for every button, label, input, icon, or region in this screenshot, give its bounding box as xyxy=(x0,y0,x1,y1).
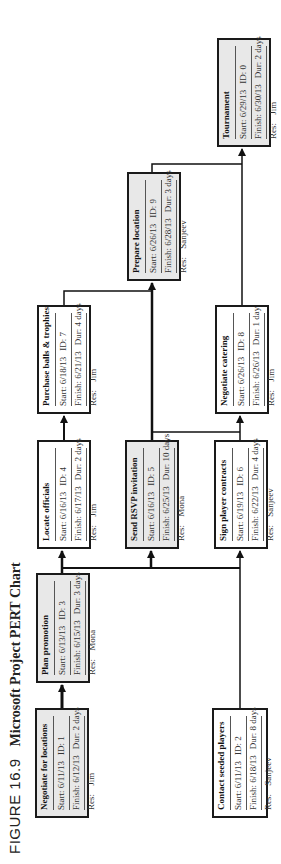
resource-label: Res: xyxy=(87,659,97,675)
task-id: 7 xyxy=(58,332,68,337)
id-label: ID: xyxy=(58,339,68,351)
finish-label: Finish: xyxy=(73,381,83,406)
duration-label: Dur: xyxy=(248,733,258,750)
finish-label: Finish: xyxy=(161,516,171,541)
duration-label: Dur: xyxy=(71,733,81,750)
finish-date: 6/18/13 xyxy=(248,755,258,783)
resource: Mona xyxy=(87,630,97,651)
task-id: 8 xyxy=(236,332,246,337)
task-id: 3 xyxy=(57,601,67,606)
duration: 3 days xyxy=(72,572,82,595)
task-id: 1 xyxy=(56,736,66,741)
task-node-sign-player-contracts[interactable]: Sign player contracts Start: 6/19/13ID: … xyxy=(214,440,268,549)
task-id: 4 xyxy=(58,467,68,472)
id-label: ID: xyxy=(148,206,158,218)
finish-label: Finish: xyxy=(71,785,81,810)
duration-label: Dur: xyxy=(250,464,260,481)
duration: 10 days xyxy=(161,434,171,462)
start-label: Start: xyxy=(238,120,248,140)
task-node-purchase-balls-trophies[interactable]: Purchase balls & trophies Start: 6/18/13… xyxy=(37,305,91,414)
duration: 2 days xyxy=(253,36,263,59)
duration-label: Dur: xyxy=(253,62,263,79)
finish-label: Finish: xyxy=(253,114,263,139)
task-node-prepare-location[interactable]: Prepare location Start: 6/26/13ID: 9 Fin… xyxy=(127,172,181,281)
task-name: Contact seeded players xyxy=(217,716,231,810)
id-label: ID: xyxy=(235,474,245,486)
finish-label: Finish: xyxy=(250,516,260,541)
duration: 2 days xyxy=(71,707,81,730)
duration: 2 days xyxy=(73,438,83,461)
id-label: ID: xyxy=(58,474,68,486)
resource: Jim xyxy=(88,504,98,517)
finish-date: 6/21/13 xyxy=(73,351,83,379)
id-label: ID: xyxy=(56,743,66,755)
resource: Jim xyxy=(86,773,96,786)
finish-date: 6/28/13 xyxy=(163,218,173,246)
task-id: 0 xyxy=(238,65,248,70)
task-id: 5 xyxy=(146,467,156,472)
task-node-send-rsvp-invitation[interactable]: Send RSVP invitation Start: 6/16/13ID: 5… xyxy=(125,440,179,549)
duration-label: Dur: xyxy=(161,464,171,481)
task-node-negotiate-locations[interactable]: Negotiate for locations Start: 6/11/13ID… xyxy=(35,708,89,818)
resource-label: Res: xyxy=(88,525,98,541)
start-date: 6/11/13 xyxy=(56,761,66,788)
task-name: Negotiate for locations xyxy=(40,716,54,810)
task-id: 2 xyxy=(233,736,243,741)
resource: Jim xyxy=(268,102,278,115)
resource: Sanjeev xyxy=(265,488,275,517)
finish-label: Finish: xyxy=(73,516,83,541)
id-label: ID: xyxy=(238,72,248,84)
duration: 4 days xyxy=(250,438,260,461)
start-date: 6/16/13 xyxy=(146,492,156,520)
task-name: Purchase balls & trophies xyxy=(42,313,56,406)
finish-date: 6/25/13 xyxy=(161,486,171,514)
duration: 8 days xyxy=(248,707,258,730)
task-node-negotiate-catering[interactable]: Negotiate catering Start: 6/26/13ID: 8 F… xyxy=(215,305,269,414)
duration-label: Dur: xyxy=(73,464,83,481)
resource-label: Res: xyxy=(266,390,276,406)
start-date: 6/13/13 xyxy=(57,626,67,654)
resource-label: Res: xyxy=(86,794,96,810)
start-label: Start: xyxy=(146,522,156,542)
task-node-tournament[interactable]: Tournament Start: 6/29/13ID: 0 Finish: 6… xyxy=(217,38,271,147)
duration-label: Dur: xyxy=(251,329,261,346)
duration: 3 days xyxy=(163,170,173,193)
id-label: ID: xyxy=(236,339,246,351)
pert-chart-canvas: FIGURE 16.9Microsoft Project PERT Chart xyxy=(0,0,281,864)
resource-label: Res: xyxy=(88,390,98,406)
duration: 1 day xyxy=(251,307,261,327)
start-label: Start: xyxy=(236,387,246,407)
duration-label: Dur: xyxy=(163,196,173,213)
duration-label: Dur: xyxy=(72,598,82,615)
id-label: ID: xyxy=(233,743,243,755)
finish-date: 6/17/13 xyxy=(73,486,83,514)
task-name: Locate officials xyxy=(42,448,56,541)
task-node-locate-officials[interactable]: Locate officials Start: 6/16/13ID: 4 Fin… xyxy=(37,440,91,549)
finish-label: Finish: xyxy=(72,650,82,675)
resource: Jim xyxy=(266,369,276,382)
task-id: 9 xyxy=(148,199,158,204)
finish-label: Finish: xyxy=(163,248,173,273)
duration: 4 days xyxy=(73,303,83,326)
start-date: 6/19/13 xyxy=(235,492,245,520)
finish-date: 6/22/13 xyxy=(250,486,260,514)
task-name: Negotiate catering xyxy=(220,313,234,406)
task-node-plan-promotion[interactable]: Plan promotion Start: 6/13/13ID: 3 Finis… xyxy=(36,573,90,683)
finish-date: 6/26/13 xyxy=(251,351,261,379)
start-label: Start: xyxy=(57,656,67,676)
resource-label: Res: xyxy=(176,525,186,541)
start-date: 6/16/13 xyxy=(58,492,68,520)
finish-label: Finish: xyxy=(251,381,261,406)
resource-label: Res: xyxy=(268,123,278,139)
task-name: Tournament xyxy=(222,46,236,139)
id-label: ID: xyxy=(146,474,156,486)
finish-date: 6/12/13 xyxy=(71,755,81,783)
start-label: Start: xyxy=(56,791,66,811)
task-node-contact-seeded-players[interactable]: Contact seeded players Start: 6/11/13ID:… xyxy=(212,708,268,818)
task-name: Plan promotion xyxy=(41,581,55,675)
start-date: 6/18/13 xyxy=(58,357,68,385)
resource-label: Res: xyxy=(265,525,275,541)
id-label: ID: xyxy=(57,608,67,620)
resource: Jim xyxy=(88,369,98,382)
resource: Sanjeev xyxy=(263,757,273,786)
